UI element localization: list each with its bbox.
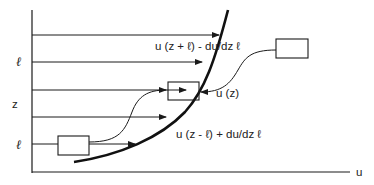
x-axis-label: u bbox=[356, 166, 362, 178]
mixing-length-diagram: u ℓ z ℓ u (z + ℓ) - du/dz ℓ u (z) u (z -… bbox=[0, 0, 374, 185]
center-parcel-box bbox=[168, 82, 199, 100]
upper-to-center-connector bbox=[201, 50, 276, 92]
lower-equation-label: u (z - ℓ) + du/dz ℓ bbox=[176, 128, 261, 140]
center-equation-label: u (z) bbox=[216, 87, 239, 99]
y-label-z: z bbox=[12, 98, 18, 110]
y-label-ell-upper: ℓ bbox=[16, 54, 22, 69]
y-label-ell-lower: ℓ bbox=[16, 137, 22, 152]
upper-equation-label: u (z + ℓ) - du/dz ℓ bbox=[155, 40, 240, 52]
upper-parcel-box bbox=[276, 39, 308, 58]
lower-parcel-box bbox=[58, 136, 89, 155]
